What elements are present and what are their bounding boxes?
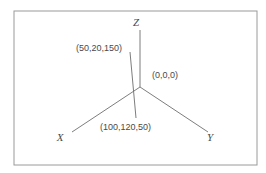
z-axis-label: Z <box>133 16 140 28</box>
coordinate-label-50-20-150: (50,20,150) <box>76 43 122 53</box>
figure-root: Z X Y (50,20,150) (0,0,0) (100,120,50) <box>0 0 266 173</box>
x-axis-label: X <box>56 131 65 143</box>
diagram-frame <box>14 11 257 165</box>
coordinate-label-100-120-50: (100,120,50) <box>100 122 151 132</box>
coordinate-axes-diagram: Z X Y (50,20,150) (0,0,0) (100,120,50) <box>0 0 266 173</box>
coordinate-label-origin: (0,0,0) <box>152 70 178 80</box>
